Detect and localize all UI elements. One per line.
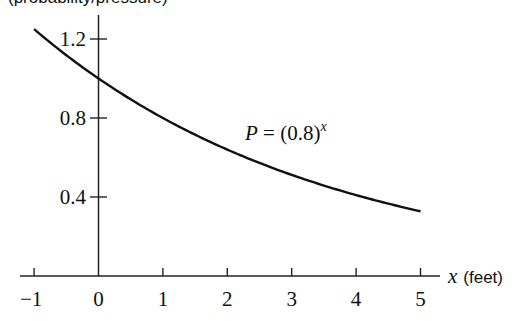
x-tick-label: 3 — [286, 287, 297, 311]
curve-p-equals-0.8-pow-x — [34, 29, 420, 211]
x-axis-label: x(feet) — [447, 264, 503, 288]
exponential-chart: (probability/pressure) −1012345 0.40.81.… — [0, 0, 525, 321]
x-ticks: −1012345 — [20, 268, 426, 311]
x-tick-label: 2 — [222, 287, 233, 311]
x-tick-label: 4 — [351, 287, 362, 311]
y-tick-label: 0.4 — [60, 185, 87, 209]
curve-annotation: P = (0.8)x — [244, 119, 327, 145]
x-tick-label: 5 — [415, 287, 426, 311]
x-tick-label: 0 — [93, 287, 104, 311]
x-tick-label: −1 — [20, 287, 42, 311]
y-tick-label: 1.2 — [60, 27, 86, 51]
y-tick-label: 0.8 — [60, 106, 86, 130]
top-label: (probability/pressure) — [8, 0, 168, 7]
x-tick-label: 1 — [158, 287, 169, 311]
